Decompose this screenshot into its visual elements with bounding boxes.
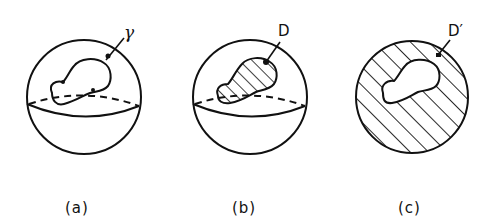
label-D-prime: D′ (448, 22, 463, 40)
label-D: D (278, 22, 290, 40)
orientation-dot (61, 80, 65, 84)
equator-front (193, 104, 305, 117)
orientation-dot (91, 88, 95, 92)
equator-front (27, 104, 139, 117)
equator-back (29, 95, 139, 106)
diagram-canvas (0, 0, 491, 221)
orientation-dot (263, 59, 269, 65)
caption-b: (b) (232, 199, 256, 217)
orientation-dot (106, 54, 111, 59)
orientation-mark (436, 53, 441, 57)
equator-back (195, 95, 305, 106)
panel-a (27, 38, 141, 154)
caption-c: (c) (398, 199, 421, 217)
sphere-outline (193, 40, 307, 154)
label-gamma: γ (124, 22, 134, 42)
caption-a: (a) (65, 199, 89, 217)
sphere-outline (27, 40, 141, 154)
panel-c (350, 35, 480, 165)
panel-b (193, 40, 307, 154)
